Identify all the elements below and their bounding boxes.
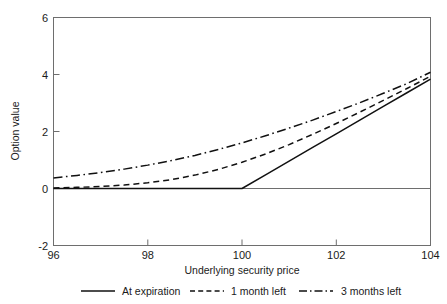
y-axis-tick-labels: 6 4 2 0 -2 (38, 12, 48, 252)
legend-label-3-months-left: 3 months left (341, 285, 401, 297)
option-value-figure: 6 4 2 0 -2 96 98 100 102 104 Underlying … (0, 0, 447, 304)
legend-item-at-expiration[interactable]: At expiration (81, 285, 181, 297)
option-value-chart: 6 4 2 0 -2 96 98 100 102 104 Underlying … (0, 0, 447, 304)
series-group (54, 72, 431, 188)
y-tick-label-0: 0 (42, 183, 48, 195)
y-axis-ticks (54, 18, 60, 246)
x-tick-label-104: 104 (421, 249, 439, 261)
x-axis-tick-labels: 96 98 100 102 104 (47, 249, 439, 261)
series-at-expiration (54, 79, 431, 188)
x-tick-label-100: 100 (233, 249, 251, 261)
x-axis-ticks (54, 240, 431, 246)
x-tick-label-102: 102 (327, 249, 345, 261)
legend-item-1-month-left[interactable]: 1 month left (190, 285, 286, 297)
plot-frame (54, 18, 431, 246)
x-tick-label-96: 96 (47, 249, 59, 261)
y-tick-label-4: 4 (42, 69, 48, 81)
legend-label-1-month-left: 1 month left (231, 285, 286, 297)
legend-item-3-months-left[interactable]: 3 months left (299, 285, 401, 297)
x-axis-title: Underlying security price (185, 264, 300, 276)
y-tick-label-6: 6 (42, 12, 48, 24)
x-tick-label-98: 98 (142, 249, 154, 261)
y-tick-label-2: 2 (42, 126, 48, 138)
legend-label-at-expiration: At expiration (122, 285, 181, 297)
y-axis-title: Option value (9, 101, 21, 160)
chart-legend: At expiration 1 month left 3 months left (81, 285, 401, 297)
